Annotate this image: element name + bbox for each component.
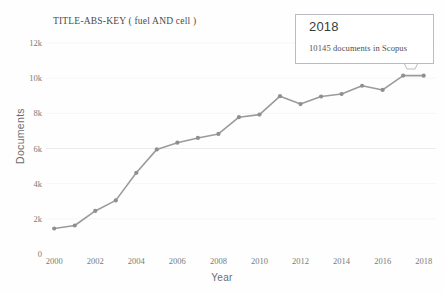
- plot-area: [46, 36, 436, 254]
- data-point-marker[interactable]: [93, 209, 97, 213]
- data-point-marker[interactable]: [319, 94, 323, 98]
- data-point-marker[interactable]: [73, 223, 77, 227]
- data-point-marker[interactable]: [401, 73, 405, 77]
- chart-screenshot: TITLE-ABS-KEY ( fuel AND cell ) Document…: [0, 0, 444, 294]
- data-point-marker[interactable]: [339, 92, 343, 96]
- x-tick-label: 2004: [116, 256, 156, 266]
- y-tick-label: 2k: [12, 214, 42, 224]
- x-tick-label: 2008: [198, 256, 238, 266]
- y-axis-ticks: 02k4k6k8k10k12k: [8, 36, 42, 254]
- data-point-marker[interactable]: [257, 112, 261, 116]
- data-point-marker[interactable]: [175, 141, 179, 145]
- y-tick-label: 4k: [12, 179, 42, 189]
- x-tick-label: 2000: [34, 256, 74, 266]
- gridlines: [46, 43, 436, 219]
- x-tick-label: 2010: [239, 256, 279, 266]
- x-axis-title: Year: [0, 272, 444, 283]
- data-point-marker[interactable]: [114, 198, 118, 202]
- data-point-marker[interactable]: [360, 84, 364, 88]
- x-axis-ticks: 2000200220042006200820102012201420162018: [46, 256, 436, 272]
- data-point-marker[interactable]: [52, 226, 56, 230]
- series-line: [54, 76, 423, 229]
- y-tick-label: 12k: [12, 38, 42, 48]
- y-tick-label: 6k: [12, 144, 42, 154]
- data-point-marker[interactable]: [278, 94, 282, 98]
- tooltip-year-label: 2018: [309, 19, 339, 34]
- x-tick-label: 2012: [281, 256, 321, 266]
- x-tick-label: 2018: [404, 256, 444, 266]
- line-chart-svg: [46, 36, 436, 254]
- data-point-marker[interactable]: [381, 88, 385, 92]
- y-tick-label: 10k: [12, 73, 42, 83]
- data-point-marker[interactable]: [216, 132, 220, 136]
- series-markers: [52, 73, 426, 230]
- tooltip-pointer-icon: [404, 63, 418, 71]
- data-point-marker[interactable]: [155, 147, 159, 151]
- data-point-marker[interactable]: [298, 102, 302, 106]
- x-tick-label: 2016: [363, 256, 403, 266]
- chart-title: TITLE-ABS-KEY ( fuel AND cell ): [53, 16, 196, 26]
- data-point-marker[interactable]: [134, 171, 138, 175]
- x-tick-label: 2014: [322, 256, 362, 266]
- y-tick-label: 8k: [12, 108, 42, 118]
- data-point-tooltip[interactable]: 2018 10145 documents in Scopus: [295, 14, 434, 64]
- x-tick-label: 2002: [75, 256, 115, 266]
- data-point-marker[interactable]: [237, 115, 241, 119]
- tooltip-count-label: 10145 documents in Scopus: [309, 43, 407, 53]
- data-point-marker[interactable]: [196, 136, 200, 140]
- x-tick-label: 2006: [157, 256, 197, 266]
- data-point-marker[interactable]: [422, 74, 426, 78]
